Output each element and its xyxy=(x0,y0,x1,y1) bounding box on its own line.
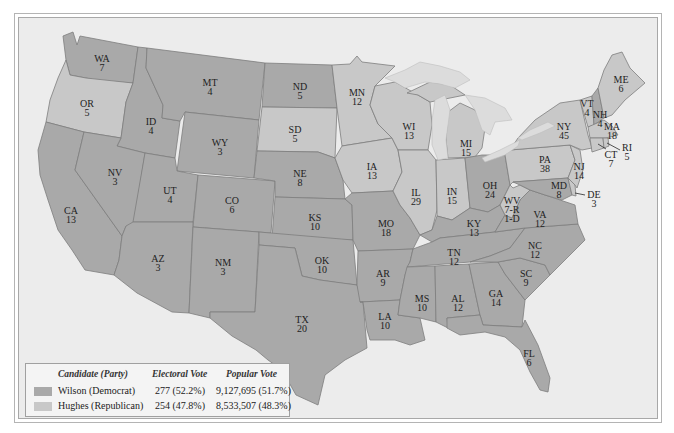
candidate-name: Wilson (Democrat) xyxy=(58,385,135,396)
popular-vote: 8,533,507 (48.3%) xyxy=(216,400,291,411)
electoral-vote: 277 (52.2%) xyxy=(155,385,205,396)
electoral-vote: 254 (47.8%) xyxy=(155,400,205,411)
state-label-ma: MA18 xyxy=(604,121,621,141)
leader-line-de xyxy=(575,193,585,195)
state-label-in: IN15 xyxy=(447,186,458,206)
state-label-wv: WV7-R1-D xyxy=(504,195,521,224)
candidate-name: Hughes (Republican) xyxy=(58,400,143,411)
state-label-il: IL29 xyxy=(411,187,421,207)
swatch-republican xyxy=(34,402,52,411)
state-label-ct: CT7 xyxy=(605,149,618,169)
state-AZ xyxy=(114,222,193,313)
state-label-pa: PA38 xyxy=(539,154,552,174)
legend-header-electoral: Electoral Vote xyxy=(152,369,207,379)
legend-header-candidate: Candidate (Party) xyxy=(58,369,128,379)
legend: Candidate (Party) Electoral Vote Popular… xyxy=(25,363,290,417)
popular-vote: 9,127,695 (51.7%) xyxy=(216,385,291,396)
legend-header-popular: Popular Vote xyxy=(226,369,277,379)
state-label-ks: KS10 xyxy=(309,212,322,232)
legend-row-hughes: Hughes (Republican) 254 (47.8%) 8,533,50… xyxy=(30,400,288,413)
state-CT xyxy=(590,138,604,152)
swatch-democrat xyxy=(34,387,52,396)
lake-michigan xyxy=(432,95,450,160)
legend-row-wilson: Wilson (Democrat) 277 (52.2%) 9,127,695 … xyxy=(30,385,288,398)
state-label-mi: MI15 xyxy=(460,138,472,158)
state-label-de: DE3 xyxy=(587,189,600,209)
state-label-wi: WI13 xyxy=(403,121,416,141)
state-label-nj: NJ14 xyxy=(573,161,584,181)
state-label-al: AL12 xyxy=(451,293,464,313)
state-label-ia: IA13 xyxy=(367,161,378,181)
state-label-tn: TN12 xyxy=(447,247,460,267)
state-label-ri: RI5 xyxy=(622,142,632,162)
